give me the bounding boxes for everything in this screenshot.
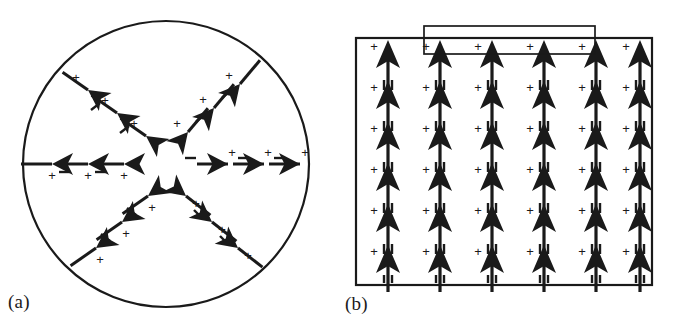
svg-text:+: + [526,39,534,54]
svg-text:+: + [72,70,80,85]
panel-a: + + + [0,0,340,329]
svg-text:+: + [422,121,430,136]
svg-text:+: + [526,121,534,136]
dipole-lattice: + + + + + + + + + + + + + + + + + + [370,39,652,292]
svg-text:+: + [370,80,378,95]
figure-root: + + + [0,0,679,329]
svg-text:+: + [370,162,378,177]
svg-text:+: + [199,92,207,107]
panel-a-label: (a) [8,292,30,311]
svg-text:+: + [192,196,200,211]
svg-text:+: + [474,80,482,95]
svg-text:+: + [370,39,378,54]
svg-text:+: + [622,121,630,136]
svg-text:+: + [474,244,482,259]
panel-b-label: (b) [345,294,368,313]
panel-b: + + + + + + + + + + + + + + + + + + [340,0,679,329]
svg-text:+: + [370,203,378,218]
svg-text:+: + [120,168,128,183]
arm-west: + + + [21,153,145,183]
svg-text:+: + [578,203,586,218]
svg-text:+: + [422,244,430,259]
svg-text:+: + [228,145,236,160]
svg-text:+: + [264,145,272,160]
svg-text:+: + [622,162,630,177]
top-electrode [424,26,595,54]
svg-text:+: + [218,222,226,237]
svg-text:+: + [622,80,630,95]
svg-text:+: + [474,121,482,136]
svg-text:+: + [526,162,534,177]
svg-text:+: + [122,226,130,241]
svg-text:+: + [173,116,181,131]
svg-text:+: + [622,244,630,259]
svg-text:+: + [578,121,586,136]
svg-text:+: + [622,203,630,218]
svg-text:+: + [370,244,378,259]
svg-text:+: + [96,252,104,267]
panel-b-diagram: + + + + + + + + + + + + + + + + + + [340,0,679,329]
svg-text:+: + [578,162,586,177]
svg-text:+: + [422,80,430,95]
svg-text:+: + [526,203,534,218]
arm-northeast: + + + [166,53,268,155]
svg-text:+: + [422,162,430,177]
film-outline [356,38,652,285]
svg-text:+: + [578,244,586,259]
svg-text:+: + [474,203,482,218]
svg-text:+: + [84,168,92,183]
svg-text:+: + [370,121,378,136]
svg-text:+: + [622,39,630,54]
svg-text:+: + [474,39,482,54]
arm-southeast: + + + [163,174,270,275]
arm-southwest: + + + [64,175,171,275]
svg-text:+: + [225,68,233,83]
svg-text:+: + [578,80,586,95]
arm-east: + + + [185,145,309,175]
svg-text:+: + [422,203,430,218]
svg-text:+: + [526,244,534,259]
svg-text:+: + [526,80,534,95]
svg-text:+: + [148,200,156,215]
svg-text:+: + [578,39,586,54]
arm-northwest: + + + [56,63,169,157]
panel-a-diagram: + + + [0,0,340,329]
svg-text:+: + [48,168,56,183]
svg-text:+: + [244,248,252,263]
svg-text:+: + [474,162,482,177]
svg-text:+: + [301,145,309,160]
